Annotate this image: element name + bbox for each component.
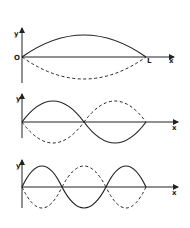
panel-mode-3: y x [16,160,178,208]
panel-mode-1: y O L x [14,28,174,83]
panel-mode-2: y x [16,94,178,143]
wave-dashed [22,57,146,79]
y-label: y [16,162,21,170]
end-label: L [147,57,152,65]
x-label: x [169,57,174,65]
wave-solid [22,35,146,57]
y-label: y [16,95,21,103]
origin-label: O [14,54,20,62]
x-label: x [172,189,177,197]
standing-waves-diagram: y O L x y x y x [0,0,190,228]
x-label: x [172,124,177,132]
y-label: y [14,30,19,38]
